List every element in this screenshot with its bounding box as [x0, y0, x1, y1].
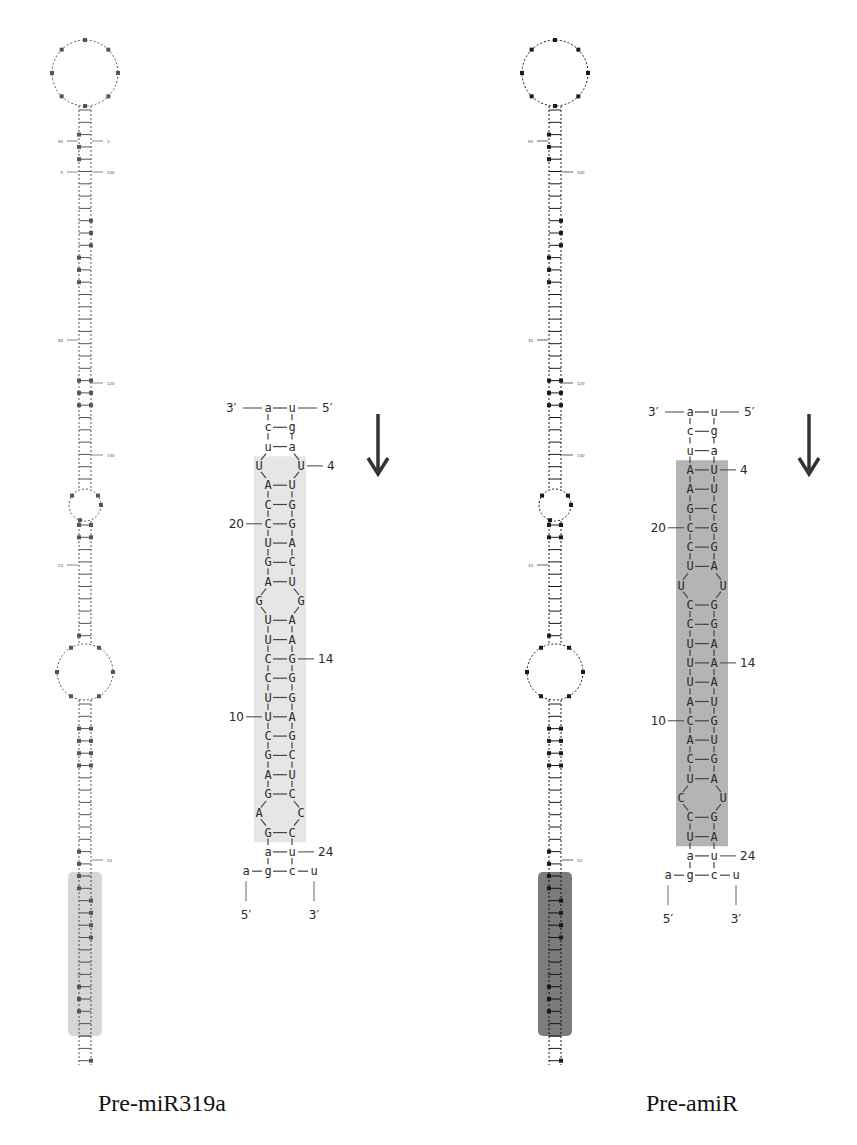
tail-nucleotide: g: [264, 864, 271, 878]
svg-text:U: U: [264, 710, 271, 724]
five-prime-label: 5′: [663, 912, 674, 926]
svg-text:a: a: [710, 444, 717, 458]
svg-text:U: U: [288, 768, 295, 782]
svg-text:U: U: [255, 459, 262, 473]
svg-text:C: C: [264, 498, 271, 512]
svg-text:u: u: [288, 401, 295, 415]
position-label: 80: [58, 338, 64, 343]
svg-text:U: U: [686, 656, 693, 670]
position-label: 24: [318, 845, 333, 859]
svg-text:a: a: [264, 845, 271, 859]
svg-text:G: G: [710, 752, 717, 766]
caption-pre-amir: Pre-amiR: [646, 1090, 738, 1117]
svg-text:A: A: [710, 637, 718, 651]
svg-text:U: U: [297, 459, 304, 473]
svg-text:A: A: [288, 613, 296, 627]
svg-text:C: C: [710, 502, 717, 516]
svg-text:C: C: [288, 555, 295, 569]
position-label: 10: [577, 858, 583, 863]
svg-text:u: u: [686, 444, 693, 458]
svg-text:U: U: [264, 536, 271, 550]
rna-structure-figure: 1009012080140201053 3′5′aucguaUU4AUCGCG2…: [0, 0, 857, 1145]
three-prime-label: 3′: [309, 908, 320, 922]
tail-nucleotide: c: [288, 864, 295, 878]
position-label: 3: [107, 139, 110, 144]
mirna-highlight-region: [676, 460, 728, 846]
svg-text:A: A: [710, 772, 718, 786]
position-label: 10: [229, 710, 244, 724]
svg-text:C: C: [686, 714, 693, 728]
svg-text:G: G: [288, 498, 295, 512]
position-label: 10: [107, 858, 113, 863]
svg-text:A: A: [710, 559, 718, 573]
svg-text:U: U: [686, 830, 693, 844]
svg-text:a: a: [686, 849, 693, 863]
svg-text:G: G: [297, 594, 304, 608]
position-label: 4: [327, 459, 335, 473]
svg-text:g: g: [288, 420, 295, 434]
svg-text:C: C: [686, 617, 693, 631]
svg-text:G: G: [710, 617, 717, 631]
svg-text:A: A: [686, 482, 694, 496]
svg-text:A: A: [264, 478, 272, 492]
svg-text:G: G: [288, 729, 295, 743]
svg-text:A: A: [710, 656, 718, 670]
svg-text:A: A: [264, 575, 272, 589]
svg-text:U: U: [710, 463, 717, 477]
svg-text:u: u: [288, 845, 295, 859]
caption-pre-mir319a: Pre-miR319a: [98, 1090, 226, 1117]
svg-text:U: U: [677, 579, 684, 593]
three-prime-label: 3′: [731, 912, 742, 926]
position-label: 40: [528, 338, 534, 343]
svg-text:A: A: [686, 695, 694, 709]
base-pair: au: [264, 401, 295, 420]
svg-text:U: U: [686, 559, 693, 573]
base-pair: au24: [264, 845, 333, 859]
svg-text:U: U: [710, 695, 717, 709]
position-label: 20: [651, 521, 666, 535]
svg-text:G: G: [710, 521, 717, 535]
svg-text:C: C: [264, 729, 271, 743]
svg-text:U: U: [710, 482, 717, 496]
position-label: 20: [229, 517, 244, 531]
svg-text:A: A: [686, 463, 694, 477]
position-label: 14: [740, 656, 755, 670]
svg-text:C: C: [686, 810, 693, 824]
svg-text:G: G: [288, 517, 295, 531]
svg-text:c: c: [686, 424, 693, 438]
position-label: 4: [740, 463, 748, 477]
base-pair: au24: [686, 849, 755, 863]
svg-text:G: G: [264, 748, 271, 762]
three-prime-label: 3′: [648, 405, 659, 419]
svg-text:c: c: [264, 420, 271, 434]
svg-text:U: U: [686, 675, 693, 689]
svg-text:A: A: [710, 675, 718, 689]
svg-text:C: C: [686, 540, 693, 554]
svg-text:C: C: [264, 652, 271, 666]
five-prime-label: 5′: [241, 908, 252, 922]
svg-text:C: C: [288, 826, 295, 840]
svg-text:U: U: [686, 637, 693, 651]
svg-text:A: A: [255, 806, 263, 820]
svg-text:C: C: [686, 752, 693, 766]
svg-text:G: G: [264, 555, 271, 569]
svg-text:A: A: [288, 710, 296, 724]
svg-text:C: C: [288, 748, 295, 762]
svg-text:G: G: [710, 810, 717, 824]
svg-text:a: a: [686, 405, 693, 419]
hairpin-loop: [57, 644, 113, 700]
position-label: 24: [740, 849, 755, 863]
svg-text:U: U: [710, 733, 717, 747]
position-label: 140: [577, 453, 585, 458]
position-label: 140: [107, 453, 115, 458]
down-arrow-icon: [368, 414, 388, 474]
base-pair: ua: [686, 444, 717, 463]
svg-text:a: a: [264, 401, 271, 415]
svg-text:G: G: [264, 826, 271, 840]
svg-text:A: A: [686, 733, 694, 747]
svg-text:u: u: [710, 849, 717, 863]
five-prime-label: 5′: [744, 405, 755, 419]
svg-text:C: C: [264, 517, 271, 531]
position-label: 10: [528, 563, 534, 568]
svg-text:G: G: [288, 652, 295, 666]
